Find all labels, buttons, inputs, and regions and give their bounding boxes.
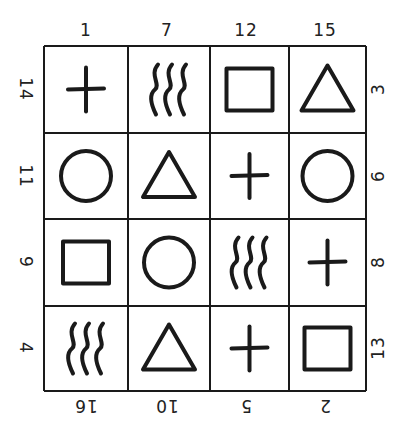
- bottom-label-4: 2: [305, 396, 345, 416]
- bottom-label-1: 16: [66, 396, 106, 416]
- cell-2-4: [303, 151, 353, 201]
- circle-icon: [144, 238, 194, 288]
- cell-4-4: [305, 328, 351, 370]
- plus-icon: [310, 241, 346, 285]
- right-label-4: 13: [368, 328, 388, 368]
- top-label-4: 15: [305, 20, 345, 40]
- symbol-grid: [0, 0, 406, 435]
- cell-1-3: [227, 69, 273, 111]
- square-icon: [227, 69, 273, 111]
- right-label-2: 6: [368, 156, 388, 196]
- square-icon: [305, 328, 351, 370]
- cell-3-2: [144, 238, 194, 288]
- cell-2-3: [232, 154, 268, 198]
- waves-icon: [151, 65, 186, 115]
- right-label-3: 8: [368, 242, 388, 282]
- left-label-2: 11: [16, 156, 36, 196]
- square-icon: [63, 242, 109, 284]
- bottom-label-3: 5: [226, 396, 266, 416]
- cell-4-2: [143, 325, 195, 370]
- plus-icon: [68, 68, 104, 112]
- left-label-1: 14: [16, 69, 36, 109]
- circle-icon: [61, 151, 111, 201]
- top-label-3: 12: [226, 20, 266, 40]
- waves-icon: [232, 238, 267, 288]
- top-label-2: 7: [147, 20, 187, 40]
- top-label-1: 1: [66, 20, 106, 40]
- cell-2-2: [143, 152, 195, 197]
- triangle-icon: [143, 325, 195, 370]
- triangle-icon: [302, 66, 354, 111]
- left-label-3: 9: [16, 242, 36, 282]
- bottom-label-2: 10: [147, 396, 187, 416]
- waves-icon: [68, 324, 103, 374]
- triangle-icon: [143, 152, 195, 197]
- cell-1-2: [151, 65, 186, 115]
- plus-icon: [232, 154, 268, 198]
- cell-4-3: [232, 327, 268, 371]
- cell-3-3: [232, 238, 267, 288]
- cell-3-1: [63, 242, 109, 284]
- circle-icon: [303, 151, 353, 201]
- cell-3-4: [310, 241, 346, 285]
- cell-2-1: [61, 151, 111, 201]
- left-label-4: 4: [16, 328, 36, 368]
- plus-icon: [232, 327, 268, 371]
- cell-4-1: [68, 324, 103, 374]
- cell-1-1: [68, 68, 104, 112]
- right-label-1: 3: [368, 69, 388, 109]
- cell-1-4: [302, 66, 354, 111]
- grid-lines: [44, 46, 366, 391]
